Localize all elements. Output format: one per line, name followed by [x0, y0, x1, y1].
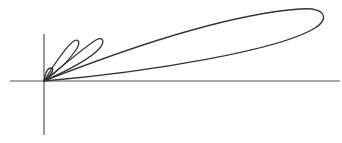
lobe-large — [44, 9, 323, 81]
polar-plot — [0, 0, 342, 143]
